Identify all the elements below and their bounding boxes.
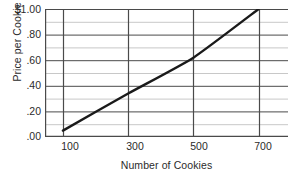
x-tick-label: 100 [48,141,92,152]
line-chart-figure: Price per Cookie Number of Cookies $1.00… [0,0,288,176]
y-tick-label: .20 [0,106,41,116]
x-tick-label: 300 [113,141,157,152]
plot-svg [45,9,288,137]
y-axis-title: Price per Cookie [11,0,23,107]
y-tick-label: .60 [0,55,41,65]
y-tick-label: $1.00 [0,4,41,14]
y-tick-label: .80 [0,29,41,39]
x-tick-label: 500 [177,141,221,152]
plot-area [45,9,288,137]
x-tick-label: 700 [241,141,285,152]
x-axis-title: Number of Cookies [45,159,288,171]
y-tick-label: .40 [0,80,41,90]
y-tick-label: .00 [0,131,41,141]
